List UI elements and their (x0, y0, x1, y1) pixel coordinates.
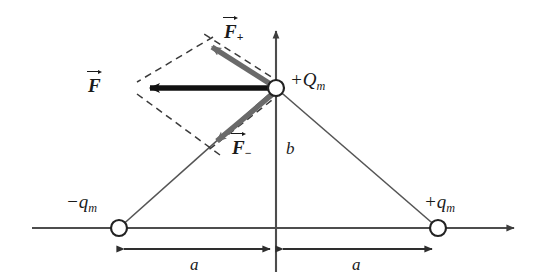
physics-vector-diagram: +Qm −qm +qm F+ F− F b a a (0, 0, 550, 278)
distance-right-label: a (352, 256, 361, 273)
triangle-side-right (276, 88, 438, 228)
center-charge-symbol: Q (303, 69, 317, 90)
right-charge-label: +qm (424, 192, 455, 214)
left-charge-label: −qm (66, 192, 97, 214)
force-minus-label: F− (232, 138, 251, 160)
right-charge-symbol: q (437, 191, 447, 212)
center-charge-subscript: m (317, 79, 326, 93)
distance-left-label: a (190, 256, 199, 273)
force-resultant-symbol: F (88, 76, 101, 95)
force-minus-symbol: F (232, 138, 245, 157)
force-plus-label: F+ (224, 22, 243, 44)
center-charge-label: +Qm (290, 70, 325, 92)
force-plus-subscript: + (237, 31, 244, 44)
right-charge-sign: + (424, 191, 437, 212)
height-label: b (286, 140, 295, 157)
left-charge-subscript: m (88, 201, 97, 215)
dashed-construction-upper (137, 37, 213, 82)
right-charge-node (430, 220, 446, 236)
left-charge-node (111, 220, 127, 236)
dashed-construction-lower (137, 94, 220, 155)
left-charge-symbol: q (79, 191, 89, 212)
force-resultant-label: F (88, 76, 101, 95)
center-charge-node (268, 80, 284, 96)
diagram-canvas (0, 0, 550, 278)
force-plus-vector (212, 47, 272, 85)
force-plus-symbol: F (224, 22, 237, 41)
right-charge-subscript: m (446, 201, 455, 215)
center-charge-sign: + (290, 69, 303, 90)
left-charge-sign: − (66, 191, 79, 212)
force-minus-subscript: − (245, 147, 252, 160)
